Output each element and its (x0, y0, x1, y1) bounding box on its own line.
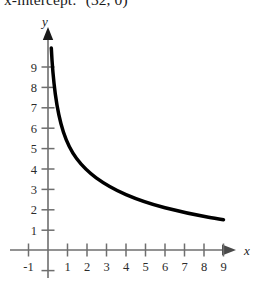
y-tick-label: 8 (31, 81, 37, 95)
x-tick-label: 3 (103, 260, 109, 274)
x-tick-label: -1 (23, 260, 33, 274)
x-axis (10, 245, 236, 256)
x-axis-label: x (243, 243, 250, 258)
x-tick-label: 7 (181, 260, 187, 274)
y-tick-label: 4 (31, 163, 38, 177)
figure-page: x-intercept:(32, 0) (0, 0, 262, 285)
x-tick-label: 5 (142, 260, 148, 274)
y-tick-label: 5 (31, 142, 37, 156)
y-tick-label: 6 (31, 122, 37, 136)
x-tick-labels: -1 1 2 3 4 5 6 7 8 9 (23, 260, 226, 274)
x-tick-label: 9 (220, 260, 226, 274)
x-tick-label: 6 (162, 260, 168, 274)
y-tick-label: 2 (31, 203, 37, 217)
x-tick-label: 2 (84, 260, 90, 274)
x-tick-label: 8 (201, 260, 207, 274)
graph-figure: -1 1 2 3 4 5 6 7 8 9 9 8 7 6 5 4 3 2 (0, 18, 262, 285)
caption-prefix: x-intercept: (4, 0, 77, 8)
caption-point: (32, 0) (86, 0, 128, 8)
y-tick-label: 1 (31, 224, 37, 238)
graph-svg: -1 1 2 3 4 5 6 7 8 9 9 8 7 6 5 4 3 2 (0, 18, 262, 285)
plot-curve (51, 48, 223, 220)
y-tick-labels: 9 8 7 6 5 4 3 2 1 (31, 61, 38, 238)
x-tick-label: 1 (64, 260, 70, 274)
y-tick-label: 3 (31, 183, 37, 197)
caption-line: x-intercept:(32, 0) (4, 0, 262, 13)
y-tick-label: 9 (31, 61, 37, 75)
y-tick-label: 7 (31, 101, 37, 115)
y-axis-label: y (40, 18, 48, 29)
x-tick-label: 4 (123, 260, 130, 274)
